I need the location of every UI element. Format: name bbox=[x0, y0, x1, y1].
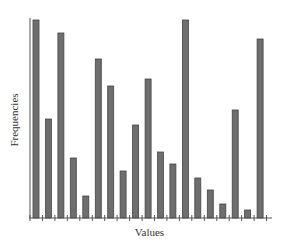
bar bbox=[108, 86, 114, 218]
bar bbox=[232, 110, 238, 218]
bar bbox=[46, 119, 52, 218]
bar bbox=[207, 190, 213, 218]
bar bbox=[182, 20, 188, 218]
bar bbox=[195, 178, 201, 218]
bar bbox=[95, 59, 101, 218]
bar bbox=[83, 196, 89, 218]
y-axis-label: Frequencies bbox=[8, 80, 20, 160]
bar bbox=[257, 39, 263, 218]
bar bbox=[170, 164, 176, 218]
bar bbox=[33, 20, 39, 218]
bar bbox=[133, 125, 139, 218]
bar bbox=[158, 152, 164, 218]
bar bbox=[220, 204, 226, 218]
bar bbox=[58, 33, 64, 218]
bar bbox=[245, 210, 251, 218]
bar-chart bbox=[0, 0, 281, 250]
bars-group bbox=[33, 20, 263, 218]
bar bbox=[145, 79, 151, 218]
x-axis-label: Values bbox=[0, 226, 281, 238]
bar bbox=[120, 171, 126, 218]
bar bbox=[70, 158, 76, 218]
